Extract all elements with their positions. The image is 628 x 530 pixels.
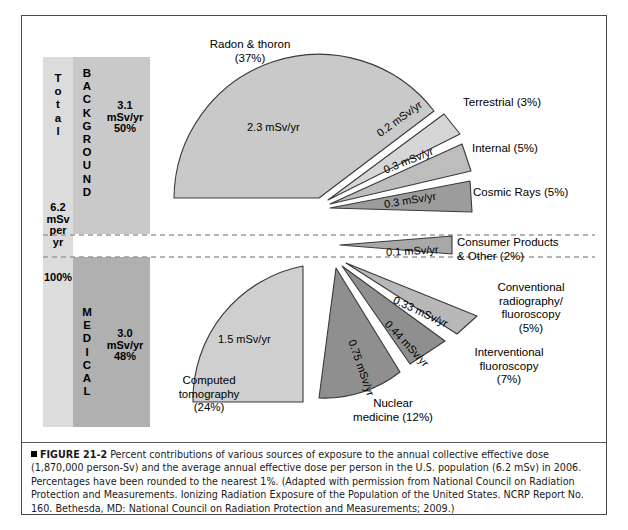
label-nuclear: Nuclear medicine (12%) bbox=[338, 397, 448, 424]
total-value-number: 6.2 bbox=[43, 202, 73, 214]
label-consumer: Consumer Products & Other (2%) bbox=[457, 236, 559, 263]
label-cosmic: Cosmic Rays (5%) bbox=[473, 186, 568, 200]
figure-caption: FIGURE 21-2 Percent contributions of var… bbox=[31, 448, 597, 515]
label-conventional-line3: fluoroscopy bbox=[481, 308, 581, 322]
medical-letter: C bbox=[79, 359, 95, 372]
label-conventional-line4: (5%) bbox=[481, 322, 581, 336]
background-letter: K bbox=[79, 107, 95, 120]
label-conventional-line1: Conventional bbox=[481, 281, 581, 295]
background-letter: A bbox=[79, 80, 95, 93]
background-letter: U bbox=[79, 159, 95, 172]
background-value-percent: 50% bbox=[101, 123, 149, 135]
figure-number: FIGURE 21-2 bbox=[40, 449, 107, 460]
label-consumer-line1: Consumer Products bbox=[457, 236, 559, 250]
label-interventional-line3: (7%) bbox=[454, 373, 564, 387]
label-conventional-line2: radiography/ bbox=[481, 295, 581, 309]
background-letter: C bbox=[79, 93, 95, 106]
background-letter: R bbox=[79, 133, 95, 146]
label-radon-line2: (37%) bbox=[185, 52, 315, 66]
background-value-number: 3.1 bbox=[101, 100, 149, 112]
medical-value-number: 3.0 bbox=[101, 328, 149, 340]
medical-label-vertical: M E D I C A L bbox=[79, 306, 95, 398]
total-dose-value: 6.2 mSv per yr bbox=[43, 202, 73, 248]
background-letter: O bbox=[79, 146, 95, 159]
background-letter: B bbox=[79, 67, 95, 80]
label-radon-line1: Radon & thoron bbox=[185, 38, 315, 52]
total-label-vertical: T o t a l bbox=[50, 72, 66, 138]
label-nuclear-line1: Nuclear bbox=[338, 397, 448, 411]
caption-divider bbox=[22, 442, 606, 443]
total-percent: 100% bbox=[37, 272, 79, 284]
value-ct: 1.5 mSv/yr bbox=[218, 333, 271, 345]
label-interventional-line2: fluoroscopy bbox=[454, 360, 564, 374]
background-dose-value: 3.1 mSv/yr 50% bbox=[101, 100, 149, 135]
medical-letter: A bbox=[79, 372, 95, 385]
total-letter: l bbox=[50, 125, 66, 138]
medical-letter: E bbox=[79, 319, 95, 332]
background-label-vertical: B A C K G R O U N D bbox=[79, 67, 95, 199]
medical-letter: D bbox=[79, 332, 95, 345]
medical-letter: M bbox=[79, 306, 95, 319]
label-ct-line1: Computed bbox=[154, 374, 264, 388]
label-nuclear-line2: medicine (12%) bbox=[338, 411, 448, 425]
background-letter: D bbox=[79, 186, 95, 199]
value-radon: 2.3 mSv/yr bbox=[247, 121, 300, 133]
label-internal: Internal (5%) bbox=[472, 142, 538, 156]
total-letter: o bbox=[50, 85, 66, 98]
label-conventional: Conventional radiography/ fluoroscopy (5… bbox=[481, 281, 581, 335]
chart-area: T o t a l 6.2 mSv per yr 100% B A C K G … bbox=[22, 16, 606, 434]
label-interventional-line1: Interventional bbox=[454, 346, 564, 360]
label-ct-line3: (24%) bbox=[154, 401, 264, 415]
total-letter: T bbox=[50, 72, 66, 85]
medical-value-percent: 48% bbox=[101, 351, 149, 363]
label-consumer-line2: & Other (2%) bbox=[457, 250, 559, 264]
medical-dose-value: 3.0 mSv/yr 48% bbox=[101, 328, 149, 363]
medical-letter: L bbox=[79, 385, 95, 398]
total-letter: t bbox=[50, 98, 66, 111]
background-letter: N bbox=[79, 173, 95, 186]
total-letter: a bbox=[50, 112, 66, 125]
medical-letter: I bbox=[79, 346, 95, 359]
label-ct: Computed tomography (24%) bbox=[154, 374, 264, 415]
caption-square-marker bbox=[31, 451, 37, 457]
label-interventional: Interventional fluoroscopy (7%) bbox=[454, 346, 564, 387]
total-value-unit-2: per bbox=[43, 225, 73, 237]
label-terrestrial: Terrestrial (3%) bbox=[463, 96, 541, 110]
label-radon: Radon & thoron (37%) bbox=[185, 38, 315, 65]
figure-frame: T o t a l 6.2 mSv per yr 100% B A C K G … bbox=[21, 15, 607, 515]
caption-text: Percent contributions of various sources… bbox=[31, 449, 584, 514]
total-value-unit-3: yr bbox=[43, 237, 73, 249]
label-ct-line2: tomography bbox=[154, 388, 264, 402]
background-letter: G bbox=[79, 120, 95, 133]
